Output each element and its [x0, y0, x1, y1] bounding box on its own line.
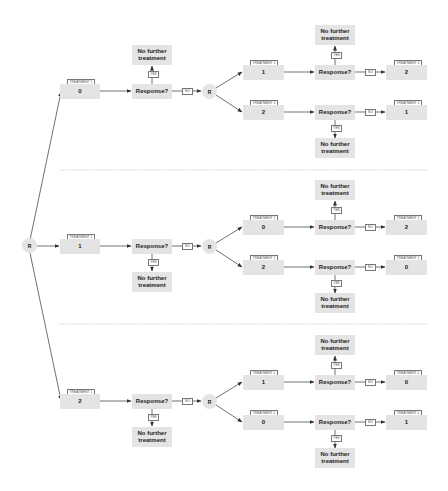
- response-box: Response?: [315, 375, 355, 390]
- yes-label: YES: [148, 414, 159, 421]
- no-further-treatment-box: No further treatment: [132, 272, 172, 292]
- no-label: NO: [365, 109, 376, 116]
- no-label: NO: [182, 88, 193, 95]
- yes-label: YES: [331, 435, 342, 442]
- stage1-treatment-box: 1: [60, 239, 100, 254]
- no-label: NO: [182, 243, 193, 250]
- treatment-value: 2: [405, 69, 408, 76]
- no-further-label: No further treatment: [315, 28, 355, 42]
- treatment-value: 0: [262, 419, 265, 426]
- no-further-treatment-box: No further treatment: [315, 335, 355, 355]
- response-label: Response?: [319, 109, 351, 116]
- randomize-node: R: [202, 394, 217, 409]
- no-further-label: No further treatment: [315, 338, 355, 352]
- response-label: Response?: [319, 69, 351, 76]
- no-further-treatment-box: No further treatment: [315, 448, 355, 468]
- no-further-treatment-box: No further treatment: [315, 180, 355, 200]
- final-treatment-box: 0: [386, 375, 427, 390]
- response-box: Response?: [315, 65, 355, 80]
- final-treatment-box: 0: [386, 260, 427, 275]
- no-further-label: No further treatment: [315, 141, 355, 155]
- no-further-label: No further treatment: [132, 275, 172, 289]
- treatment-value: 0: [262, 224, 265, 231]
- stage1-treatment-box: 2: [60, 394, 100, 409]
- no-further-treatment-box: No further treatment: [132, 45, 172, 65]
- stage2-treatment-box: 1: [243, 65, 284, 80]
- treatment-value: 1: [405, 109, 408, 116]
- randomize-node-main: R: [22, 238, 37, 253]
- no-further-label: No further treatment: [132, 48, 172, 62]
- no-further-label: No further treatment: [315, 296, 355, 310]
- treatment-value: 1: [262, 379, 265, 386]
- yes-label: YES: [331, 207, 342, 214]
- stage2-treatment-box: 2: [243, 105, 284, 120]
- final-treatment-box: 2: [386, 220, 427, 235]
- yes-label: YES: [148, 259, 159, 266]
- treatment-value: 2: [262, 264, 265, 271]
- treatment-value: 1: [78, 243, 81, 250]
- no-label: NO: [365, 224, 376, 231]
- response-label: Response?: [319, 419, 351, 426]
- randomize-label: R: [208, 244, 212, 250]
- stage1-treatment-box: 0: [60, 84, 100, 99]
- yes-label: YES: [331, 280, 342, 287]
- no-further-treatment-box: No further treatment: [315, 293, 355, 313]
- response-box: Response?: [315, 415, 355, 430]
- yes-label: YES: [331, 52, 342, 59]
- randomize-label: R: [208, 399, 212, 405]
- response-label: Response?: [319, 379, 351, 386]
- treatment-value: 2: [78, 398, 81, 405]
- no-further-label: No further treatment: [315, 183, 355, 197]
- final-treatment-box: 1: [386, 105, 427, 120]
- treatment-value: 1: [405, 419, 408, 426]
- no-further-label: No further treatment: [132, 430, 172, 444]
- treatment-value: 0: [405, 379, 408, 386]
- response-label: Response?: [136, 398, 168, 405]
- no-label: NO: [365, 419, 376, 426]
- stage2-treatment-box: 0: [243, 220, 284, 235]
- no-further-label: No further treatment: [315, 451, 355, 465]
- no-label: NO: [182, 398, 193, 405]
- no-label: NO: [365, 69, 376, 76]
- treatment-value: 0: [405, 264, 408, 271]
- yes-label: YES: [331, 362, 342, 369]
- response-box: Response?: [132, 84, 172, 99]
- response-label: Response?: [136, 88, 168, 95]
- stage2-treatment-box: 1: [243, 375, 284, 390]
- final-treatment-box: 2: [386, 65, 427, 80]
- no-further-treatment-box: No further treatment: [315, 25, 355, 45]
- treatment-value: 0: [78, 88, 81, 95]
- no-label: NO: [365, 379, 376, 386]
- no-further-treatment-box: No further treatment: [132, 427, 172, 447]
- treatment-value: 1: [262, 69, 265, 76]
- response-label: Response?: [319, 264, 351, 271]
- stage2-treatment-box: 0: [243, 415, 284, 430]
- randomize-label: R: [208, 89, 212, 95]
- response-label: Response?: [319, 224, 351, 231]
- stage2-treatment-box: 2: [243, 260, 284, 275]
- no-label: NO: [365, 264, 376, 271]
- response-box: Response?: [315, 220, 355, 235]
- no-further-treatment-box: No further treatment: [315, 138, 355, 158]
- response-box: Response?: [315, 260, 355, 275]
- treatment-value: 2: [262, 109, 265, 116]
- treatment-value: 2: [405, 224, 408, 231]
- response-box: Response?: [132, 239, 172, 254]
- randomize-node: R: [202, 239, 217, 254]
- response-box: Response?: [315, 105, 355, 120]
- final-treatment-box: 1: [386, 415, 427, 430]
- yes-label: YES: [148, 71, 159, 78]
- randomize-node: R: [202, 84, 217, 99]
- response-label: Response?: [136, 243, 168, 250]
- response-box: Response?: [132, 394, 172, 409]
- randomize-label: R: [28, 243, 32, 249]
- yes-label: YES: [331, 125, 342, 132]
